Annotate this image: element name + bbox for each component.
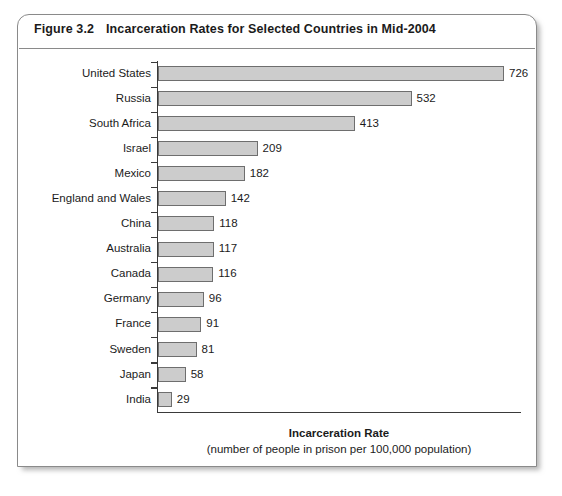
bar-row: England and Wales142 (18, 186, 536, 211)
bar (158, 166, 245, 181)
bar (158, 191, 226, 206)
bar (158, 116, 355, 131)
bar-value-label: 117 (219, 243, 237, 255)
bar (158, 91, 412, 106)
bar (158, 267, 213, 282)
bar-row: South Africa413 (18, 111, 536, 136)
bar-value-label: 142 (231, 193, 250, 205)
figure-number: Figure 3.2 (34, 22, 94, 36)
bar (158, 66, 504, 81)
x-axis-baseline (157, 412, 521, 413)
bar (158, 216, 214, 231)
bar-value-label: 413 (360, 118, 379, 130)
bar-group: 116 (158, 262, 237, 287)
bar-row: Japan58 (18, 362, 536, 387)
x-axis-subtitle: (number of people in prison per 100,000 … (157, 442, 521, 458)
bar-value-label: 532 (417, 93, 436, 105)
bar-group: 413 (158, 111, 379, 136)
bar-group: 81 (158, 337, 214, 362)
bar-row: India29 (18, 387, 536, 412)
bar-row: United States726 (18, 61, 536, 86)
bar-value-label: 91 (206, 318, 219, 330)
bar-value-label: 96 (209, 293, 222, 305)
category-label: Canada (23, 268, 151, 280)
category-label: Germany (23, 293, 151, 305)
category-label: United States (23, 68, 151, 80)
bar-group: 118 (158, 211, 238, 236)
bar-value-label: 118 (219, 218, 237, 230)
category-label: France (23, 318, 151, 330)
bar-row: Australia117 (18, 237, 536, 262)
bar-row: Sweden81 (18, 337, 536, 362)
category-label: Russia (23, 93, 151, 105)
category-label: Israel (23, 143, 151, 155)
bar-group: 726 (158, 61, 528, 86)
bar (158, 242, 214, 257)
page-caption (44, 489, 464, 496)
category-label: China (23, 218, 151, 230)
bar-row: Germany96 (18, 287, 536, 312)
bar-group: 532 (158, 86, 436, 111)
bar-group: 29 (158, 387, 190, 412)
bar-group: 91 (158, 312, 219, 337)
category-label: South Africa (23, 118, 151, 130)
bar (158, 342, 197, 357)
figure-container: Figure 3.2Incarceration Rates for Select… (17, 14, 537, 467)
bar-value-label: 116 (218, 268, 236, 280)
figure-header: Figure 3.2Incarceration Rates for Select… (18, 15, 536, 48)
category-label: Australia (23, 243, 151, 255)
x-axis-title: Incarceration Rate (157, 426, 521, 442)
bar-group: 209 (158, 136, 282, 161)
bar (158, 141, 258, 156)
figure-page: Figure 3.2Incarceration Rates for Select… (0, 0, 562, 496)
category-label: India (23, 394, 151, 406)
bar-row: Israel209 (18, 136, 536, 161)
figure-title: Figure 3.2Incarceration Rates for Select… (34, 22, 436, 36)
bar-group: 182 (158, 161, 269, 186)
bar-row: France91 (18, 312, 536, 337)
bar (158, 317, 201, 332)
bar (158, 292, 204, 307)
figure-title-text: Incarceration Rates for Selected Countri… (106, 22, 436, 36)
bar (158, 367, 186, 382)
bar-group: 96 (158, 287, 222, 312)
bar-row: Russia532 (18, 86, 536, 111)
x-axis-title-group: Incarceration Rate (number of people in … (157, 426, 521, 457)
bar-value-label: 726 (509, 68, 528, 80)
bar-row: Canada116 (18, 262, 536, 287)
bar-row: Mexico182 (18, 161, 536, 186)
bar (158, 392, 172, 407)
category-label: Japan (23, 369, 151, 381)
bar-row: China118 (18, 211, 536, 236)
bar-value-label: 81 (202, 344, 215, 356)
bar-group: 142 (158, 186, 250, 211)
category-label: England and Wales (23, 193, 151, 205)
category-label: Sweden (23, 344, 151, 356)
bar-group: 58 (158, 362, 203, 387)
bar-value-label: 182 (250, 168, 269, 180)
bar-value-label: 209 (263, 143, 282, 155)
bar-rows: United States726Russia532South Africa413… (18, 61, 536, 412)
bar-value-label: 29 (177, 394, 190, 406)
bar-group: 117 (158, 237, 237, 262)
category-label: Mexico (23, 168, 151, 180)
bar-value-label: 58 (191, 369, 204, 381)
chart-plot-area: United States726Russia532South Africa413… (18, 48, 536, 467)
